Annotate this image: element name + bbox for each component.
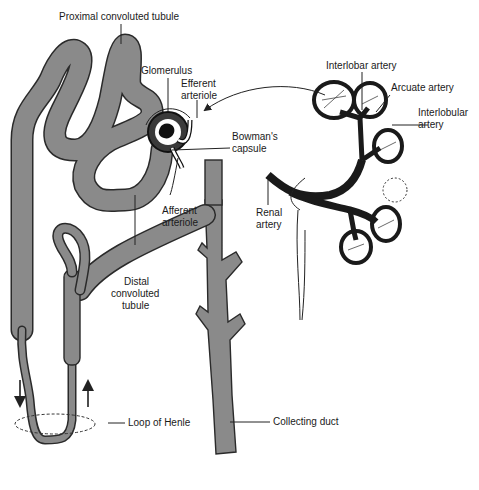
label-collecting-duct: Collecting duct [273,416,339,427]
label-interlobular-artery-2: artery [418,119,444,130]
label-renal-artery-1: Renal [256,207,282,218]
nephron-diagram: Proximal convoluted tubule Glomerulus Ef… [0,0,479,490]
label-renal-artery-2: artery [256,219,282,230]
label-efferent-arteriole-2: arteriole [181,90,218,101]
renal-artery-tree [205,82,407,320]
loop-highlight [15,414,95,434]
label-distal-1: Distal [124,276,149,287]
label-loop-of-henle: Loop of Henle [128,417,191,428]
label-glomerulus: Glomerulus [141,65,192,76]
label-afferent-arteriole-2: arteriole [162,217,199,228]
label-bowmans-capsule-1: Bowman's [232,131,278,142]
label-arcuate-artery: Arcuate artery [391,82,454,93]
lobe-6 [383,178,407,202]
label-efferent-arteriole-1: Efferent [181,78,216,89]
label-bowmans-capsule-2: capsule [232,143,267,154]
label-distal-3: tubule [122,300,150,311]
label-afferent-arteriole-1: Afferent [162,205,197,216]
label-distal-2: convoluted [111,288,159,299]
label-interlobular-artery-1: Interlobular [418,107,469,118]
label-interlobar-artery: Interlobar artery [326,60,397,71]
label-proximal-convoluted-tubule: Proximal convoluted tubule [59,11,180,22]
zoom-arrow [205,87,325,110]
